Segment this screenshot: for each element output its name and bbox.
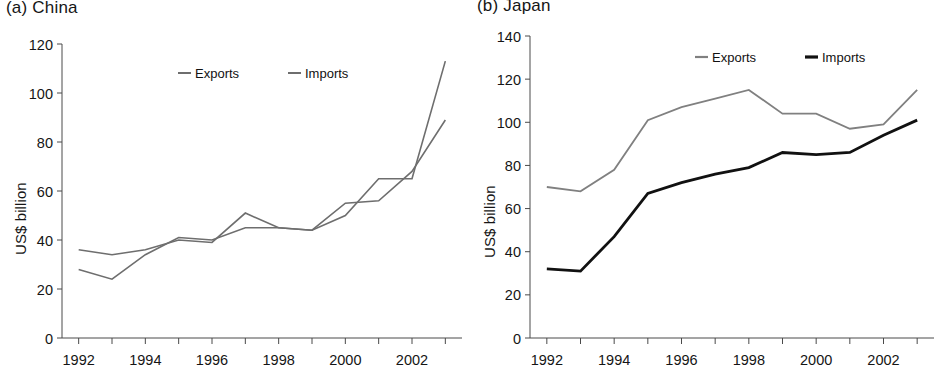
y-tick-label: 20 bbox=[505, 287, 521, 303]
y-tick-label: 0 bbox=[45, 331, 53, 347]
x-tick-label: 2000 bbox=[329, 352, 361, 368]
chart-panel-china: (a) China US$ billion 020406080100120199… bbox=[0, 0, 467, 382]
y-tick-label: 80 bbox=[505, 158, 521, 174]
y-tick-label: 40 bbox=[505, 244, 521, 260]
y-tick-label: 60 bbox=[37, 184, 53, 200]
x-tick-label: 2002 bbox=[867, 352, 899, 368]
y-tick-label: 60 bbox=[505, 201, 521, 217]
series-line-exports bbox=[547, 90, 917, 191]
y-tick-label: 140 bbox=[497, 29, 521, 45]
chart-panel-japan: (b) Japan US$ billion 020406080100120140… bbox=[467, 0, 934, 382]
x-tick-label: 1996 bbox=[196, 352, 228, 368]
legend-label-imports: Imports bbox=[822, 50, 866, 65]
x-tick-label: 2002 bbox=[396, 352, 428, 368]
legend-label-exports: Exports bbox=[712, 50, 757, 65]
x-tick-label: 1994 bbox=[598, 352, 630, 368]
x-tick-label: 1992 bbox=[63, 352, 95, 368]
line-chart-japan: 0204060801001201401992199419961998200020… bbox=[467, 0, 934, 382]
legend-label-imports: Imports bbox=[305, 66, 349, 81]
y-tick-label: 0 bbox=[513, 331, 521, 347]
series-line-exports bbox=[79, 120, 446, 279]
x-tick-label: 2000 bbox=[800, 352, 832, 368]
line-chart-china: 020406080100120199219941996199820002002E… bbox=[0, 0, 467, 382]
x-tick-label: 1994 bbox=[129, 352, 161, 368]
series-line-imports bbox=[547, 120, 917, 271]
x-tick-label: 1996 bbox=[665, 352, 697, 368]
y-tick-label: 40 bbox=[37, 233, 53, 249]
figure-container: (a) China US$ billion 020406080100120199… bbox=[0, 0, 934, 382]
y-tick-label: 80 bbox=[37, 135, 53, 151]
series-line-imports bbox=[79, 61, 446, 255]
y-tick-label: 120 bbox=[29, 37, 53, 53]
y-tick-label: 100 bbox=[29, 86, 53, 102]
y-tick-label: 120 bbox=[497, 72, 521, 88]
x-tick-label: 1992 bbox=[531, 352, 563, 368]
y-tick-label: 100 bbox=[497, 115, 521, 131]
y-tick-label: 20 bbox=[37, 282, 53, 298]
legend-label-exports: Exports bbox=[195, 66, 240, 81]
x-tick-label: 1998 bbox=[733, 352, 765, 368]
x-tick-label: 1998 bbox=[263, 352, 295, 368]
